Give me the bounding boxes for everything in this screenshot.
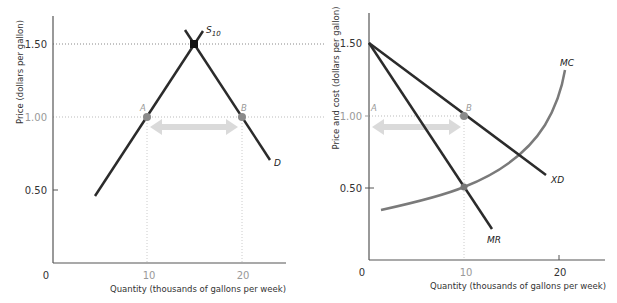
x-tick-20-right: 20: [554, 267, 567, 278]
mc-label: MC: [560, 58, 575, 68]
supply-curve: [95, 31, 203, 196]
x-tick-10: 10: [143, 270, 156, 281]
mc-curve: [381, 70, 565, 210]
point-a: [143, 113, 151, 121]
double-arrow-right: [372, 119, 461, 135]
point-a-label-right: A: [370, 103, 377, 113]
mr-mc-intersection: [461, 184, 468, 191]
origin-label: 0: [43, 270, 49, 281]
y-axis-label-right: Price and cost (dollars per gallon): [331, 7, 341, 150]
mr-label: MR: [487, 235, 501, 245]
x-axis-label: Quantity (thousands of gallons per week): [110, 284, 286, 294]
x-tick-10-right: 10: [460, 267, 473, 278]
y-axis-label: Price (dollars per gallon): [15, 20, 25, 124]
point-b-label-right: B: [466, 103, 472, 113]
point-b-right: [460, 112, 468, 120]
equilibrium-point: [190, 40, 198, 48]
demand-label: D: [274, 158, 281, 168]
y-tick-100: 1.00: [25, 112, 47, 123]
right-chart: 1.50 1.00 0.50 0 10 20 Quantity (thousan…: [331, 7, 606, 292]
mr-curve: [369, 43, 492, 229]
supply-label: S10: [206, 25, 221, 38]
point-a-label: A: [139, 103, 146, 113]
point-b-label: B: [241, 103, 247, 113]
origin-label-right: 0: [359, 267, 365, 278]
double-arrow: [150, 119, 238, 135]
x-tick-20: 20: [237, 270, 250, 281]
x-axis-label-right: Quantity (thousands of gallons per week): [430, 281, 606, 291]
figure: 1.50 1.00 0.50 0 10 20 Quantity (thousan…: [0, 0, 617, 303]
demand-curve: [185, 30, 270, 160]
left-chart: 1.50 1.00 0.50 0 10 20 Quantity (thousan…: [15, 16, 326, 294]
y-tick-150-right: 1.50: [340, 38, 362, 49]
xd-curve: [369, 43, 546, 175]
y-tick-150: 1.50: [25, 39, 47, 50]
point-b: [238, 113, 246, 121]
y-tick-100-right: 1.00: [340, 111, 362, 122]
xd-label: XD: [550, 175, 564, 185]
y-tick-050-right: 0.50: [340, 183, 362, 194]
y-tick-050: 0.50: [25, 185, 47, 196]
